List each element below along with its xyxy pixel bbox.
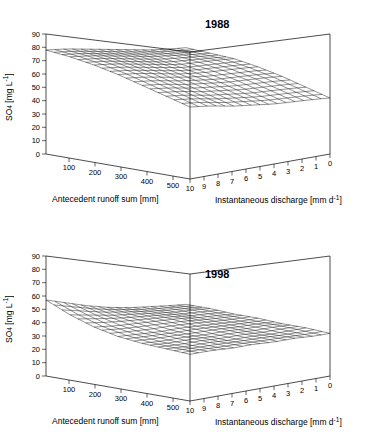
svg-text:2: 2 [300, 386, 304, 395]
year-label-1988: 1988 [205, 18, 229, 30]
svg-text:20: 20 [32, 123, 40, 132]
svg-text:7: 7 [230, 399, 234, 408]
svg-text:0: 0 [328, 159, 332, 168]
surface-plot-1998: 0 10 20 30 40 50 60 70 80 90 [0, 226, 368, 441]
svg-text:2: 2 [300, 164, 304, 173]
x-axis-label-1998: Antecedent runoff sum [mm] [52, 416, 159, 426]
plot-area-1988: 0 10 20 30 40 50 60 70 80 90 [0, 4, 368, 219]
y-axis-label-1988: Instantaneous discharge [mm d-1] [215, 194, 342, 205]
svg-text:90: 90 [32, 252, 40, 261]
svg-text:10: 10 [186, 406, 194, 415]
svg-text:200: 200 [89, 390, 102, 399]
year-label-1998: 1998 [205, 268, 229, 280]
z-axis-label-1998: SO4 [mg L-1] [2, 264, 16, 374]
svg-text:20: 20 [32, 345, 40, 354]
svg-text:100: 100 [63, 163, 76, 172]
svg-text:6: 6 [244, 396, 248, 405]
chart-panel-1998: 0 10 20 30 40 50 60 70 80 90 [0, 226, 368, 441]
svg-text:70: 70 [32, 56, 40, 65]
surface-mesh-1988 [46, 48, 330, 107]
svg-text:10: 10 [186, 184, 194, 193]
y-axis-label-1998: Instantaneous discharge [mm d-1] [215, 416, 342, 427]
svg-text:3: 3 [286, 167, 290, 176]
x-axis-label-1988: Antecedent runoff sum [mm] [52, 194, 159, 204]
svg-text:200: 200 [89, 168, 102, 177]
svg-text:50: 50 [32, 83, 40, 92]
svg-text:50: 50 [32, 305, 40, 314]
svg-text:60: 60 [32, 292, 40, 301]
svg-text:30: 30 [32, 332, 40, 341]
chart-panel-1988: 0 10 20 30 40 50 60 70 80 90 [0, 4, 368, 219]
svg-text:3: 3 [286, 389, 290, 398]
svg-text:6: 6 [244, 174, 248, 183]
svg-text:500: 500 [167, 181, 180, 190]
svg-text:4: 4 [272, 391, 276, 400]
svg-text:10: 10 [32, 358, 40, 367]
svg-text:80: 80 [32, 265, 40, 274]
surface-mesh-1998 [46, 300, 330, 354]
svg-text:60: 60 [32, 70, 40, 79]
svg-text:9: 9 [202, 182, 206, 191]
svg-text:70: 70 [32, 278, 40, 287]
svg-text:8: 8 [216, 401, 220, 410]
svg-text:400: 400 [141, 177, 154, 186]
svg-text:9: 9 [202, 404, 206, 413]
surface-plot-1988: 0 10 20 30 40 50 60 70 80 90 [0, 4, 368, 219]
svg-text:40: 40 [32, 96, 40, 105]
svg-text:4: 4 [272, 169, 276, 178]
svg-text:300: 300 [115, 394, 128, 403]
svg-text:300: 300 [115, 172, 128, 181]
svg-text:0: 0 [36, 372, 40, 381]
svg-text:400: 400 [141, 399, 154, 408]
svg-text:90: 90 [32, 30, 40, 39]
svg-text:5: 5 [258, 172, 262, 181]
plot-area-1998: 0 10 20 30 40 50 60 70 80 90 [0, 226, 368, 441]
svg-text:100: 100 [63, 385, 76, 394]
svg-text:500: 500 [167, 403, 180, 412]
svg-text:5: 5 [258, 394, 262, 403]
z-axis-label-1988: SO4 [mg L-1] [2, 42, 16, 152]
svg-text:40: 40 [32, 318, 40, 327]
svg-text:0: 0 [36, 150, 40, 159]
svg-text:80: 80 [32, 43, 40, 52]
svg-text:10: 10 [32, 136, 40, 145]
svg-text:1: 1 [314, 384, 318, 393]
svg-text:8: 8 [216, 179, 220, 188]
figure-root: 0 10 20 30 40 50 60 70 80 90 [0, 0, 368, 443]
svg-text:0: 0 [328, 381, 332, 390]
svg-text:7: 7 [230, 177, 234, 186]
svg-text:1: 1 [314, 162, 318, 171]
svg-text:30: 30 [32, 110, 40, 119]
